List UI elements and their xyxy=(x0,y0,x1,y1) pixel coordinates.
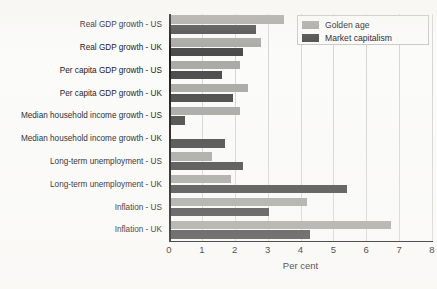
bar-chart: Real GDP growth - US Real GDP growth - U… xyxy=(0,0,437,289)
bar-golden-age xyxy=(169,175,231,183)
bar-row xyxy=(169,128,432,151)
bar-row xyxy=(169,105,432,128)
x-tick-label: 6 xyxy=(364,244,369,255)
bar-market-capitalism xyxy=(169,162,243,170)
x-axis-line xyxy=(169,241,433,243)
category-label: Real GDP growth - US xyxy=(0,21,162,29)
category-axis-labels: Real GDP growth - US Real GDP growth - U… xyxy=(0,14,166,242)
y-axis-line xyxy=(169,14,171,242)
category-label: Inflation - UK xyxy=(0,226,162,234)
bar-golden-age xyxy=(169,38,261,46)
legend-label: Golden age xyxy=(325,21,369,30)
x-axis-tick-labels: 012345678 xyxy=(0,244,437,260)
bar-golden-age xyxy=(169,221,391,229)
category-label: Median household income growth - US xyxy=(0,112,162,120)
chart-legend: Golden age Market capitalism xyxy=(297,15,429,45)
category-label: Real GDP growth - UK xyxy=(0,44,162,52)
legend-item-golden-age: Golden age xyxy=(302,19,424,31)
bar-market-capitalism xyxy=(169,208,269,216)
category-label: Inflation - US xyxy=(0,204,162,212)
x-tick-label: 0 xyxy=(166,244,171,255)
legend-item-market-capitalism: Market capitalism xyxy=(302,32,424,44)
category-label: Long-term unemployment - UK xyxy=(0,181,162,189)
x-tick-label: 1 xyxy=(199,244,204,255)
bar-row xyxy=(169,151,432,174)
bar-golden-age xyxy=(169,84,248,92)
category-label: Per capita GDP growth - UK xyxy=(0,90,162,98)
x-tick-label: 5 xyxy=(331,244,336,255)
legend-swatch-icon xyxy=(302,34,319,42)
x-tick-label: 8 xyxy=(429,244,434,255)
bar-golden-age xyxy=(169,61,240,69)
bar-market-capitalism xyxy=(169,185,347,193)
bar-golden-age xyxy=(169,15,284,23)
bar-market-capitalism xyxy=(169,139,225,147)
x-tick-label: 3 xyxy=(265,244,270,255)
plot-area xyxy=(169,14,432,242)
bar-market-capitalism xyxy=(169,94,233,102)
bar-rows xyxy=(169,14,432,242)
bar-row xyxy=(169,60,432,83)
bar-golden-age xyxy=(169,198,307,206)
category-label: Long-term unemployment - US xyxy=(0,158,162,166)
bar-row xyxy=(169,82,432,105)
x-tick-label: 4 xyxy=(298,244,303,255)
bar-market-capitalism xyxy=(169,48,243,56)
bar-row xyxy=(169,174,432,197)
gridline xyxy=(432,14,433,242)
x-tick-label: 2 xyxy=(232,244,237,255)
bar-market-capitalism xyxy=(169,230,310,238)
bar-golden-age xyxy=(169,152,212,160)
bar-market-capitalism xyxy=(169,25,256,33)
x-tick-label: 7 xyxy=(396,244,401,255)
category-label: Per capita GDP growth - US xyxy=(0,67,162,75)
bar-golden-age xyxy=(169,107,240,115)
bar-row xyxy=(169,219,432,242)
bar-row xyxy=(169,196,432,219)
category-label: Median household income growth - UK xyxy=(0,135,162,143)
bar-market-capitalism xyxy=(169,116,185,124)
legend-swatch-icon xyxy=(302,21,319,29)
bar-market-capitalism xyxy=(169,71,222,79)
x-axis-title: Per cent xyxy=(169,260,432,271)
legend-label: Market capitalism xyxy=(325,34,392,43)
